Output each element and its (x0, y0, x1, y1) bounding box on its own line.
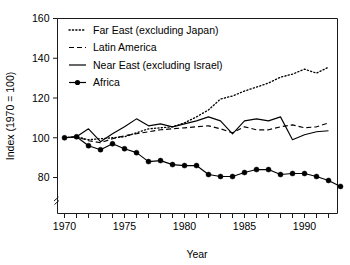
data-point-marker (302, 171, 307, 176)
y-tick-label-120: 120 (32, 92, 50, 104)
data-point-marker (278, 172, 283, 177)
data-point-marker (338, 184, 343, 189)
chart-figure: 80100120140160 19701975198019851990 Year… (0, 0, 350, 265)
data-point-marker (230, 174, 235, 179)
data-point-marker (218, 174, 223, 179)
line-chart: 80100120140160 19701975198019851990 Year… (0, 0, 350, 265)
data-point-marker (122, 146, 127, 151)
data-point-marker (110, 141, 115, 146)
data-point-marker (158, 158, 163, 163)
data-point-marker (170, 162, 175, 167)
data-point-marker (62, 135, 67, 140)
legend-marker-icon (75, 80, 80, 85)
y-axis-title: Index (1970 = 100) (4, 72, 16, 160)
data-point-marker (314, 174, 319, 179)
x-tick-label-1985: 1985 (233, 220, 257, 232)
legend-label: Africa (93, 76, 120, 88)
data-point-marker (194, 163, 199, 168)
data-point-marker (146, 159, 151, 164)
y-tick-label-100: 100 (32, 132, 50, 144)
legend-label: Latin America (93, 41, 157, 53)
x-axis-title: Year (186, 248, 208, 260)
x-tick-label-1990: 1990 (293, 220, 317, 232)
legend-label: Near East (excluding Israel) (93, 59, 223, 71)
data-point-marker (290, 171, 295, 176)
x-tick-label-1980: 1980 (173, 220, 197, 232)
legend-entry-near-east-excluding-israel: Near East (excluding Israel) (69, 59, 223, 71)
data-point-marker (98, 147, 103, 152)
y-tick-label-80: 80 (38, 171, 50, 183)
y-tick-label-160: 160 (32, 12, 50, 24)
x-tick-label-1970: 1970 (53, 220, 77, 232)
data-point-marker (206, 172, 211, 177)
x-tick-label-1975: 1975 (113, 220, 137, 232)
y-tick-label-140: 140 (32, 52, 50, 64)
data-point-marker (326, 178, 331, 183)
data-point-marker (242, 170, 247, 175)
data-point-marker (182, 163, 187, 168)
data-point-marker (254, 167, 259, 172)
data-point-marker (134, 150, 139, 155)
data-point-marker (74, 134, 79, 139)
legend-label: Far East (excluding Japan) (93, 24, 218, 36)
data-point-marker (266, 167, 271, 172)
data-point-marker (86, 143, 91, 148)
